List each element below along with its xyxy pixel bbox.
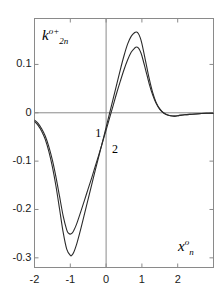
x-axis-title: xon bbox=[178, 238, 194, 257]
x-tick-label: -2 bbox=[20, 274, 50, 285]
x-tick-label: 2 bbox=[163, 274, 193, 285]
y-tick-label: -0.3 bbox=[13, 252, 32, 263]
y-tick-label: 0 bbox=[25, 107, 31, 118]
chart-figure: 0.10-0.1-0.2-0.3 -2-1012 ko+2n xon 12 bbox=[0, 0, 223, 301]
data-curve-2 bbox=[35, 47, 214, 234]
y-tick-label: 0.1 bbox=[16, 58, 31, 69]
x-axis-title-subscript: n bbox=[189, 247, 194, 257]
y-axis-title: ko+2n bbox=[42, 27, 68, 46]
y-axis-title-superscript: o+ bbox=[49, 26, 60, 36]
x-tick-label: 1 bbox=[127, 274, 157, 285]
data-curves bbox=[35, 32, 214, 256]
x-tick-label: -1 bbox=[55, 274, 85, 285]
y-tick-label: -0.1 bbox=[13, 155, 32, 166]
x-tick-label: 0 bbox=[91, 274, 121, 285]
y-axis-title-subscript: 2n bbox=[59, 36, 68, 46]
curve-label-2: 2 bbox=[112, 143, 118, 155]
data-curve-1 bbox=[35, 32, 214, 256]
y-axis-title-base: k bbox=[42, 27, 49, 43]
curve-label-1: 1 bbox=[95, 127, 101, 139]
x-axis-title-base: x bbox=[178, 238, 185, 254]
y-tick-label: -0.2 bbox=[13, 203, 32, 214]
x-axis-title-superscript: o bbox=[185, 237, 190, 247]
